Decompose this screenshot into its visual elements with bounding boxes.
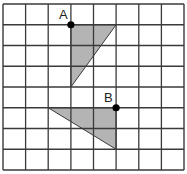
point-a-dot: [67, 21, 74, 28]
point-a-label: A: [59, 7, 68, 22]
grid-diagram: AB: [0, 0, 187, 174]
point-b-dot: [113, 104, 120, 111]
point-b-label: B: [104, 90, 113, 105]
